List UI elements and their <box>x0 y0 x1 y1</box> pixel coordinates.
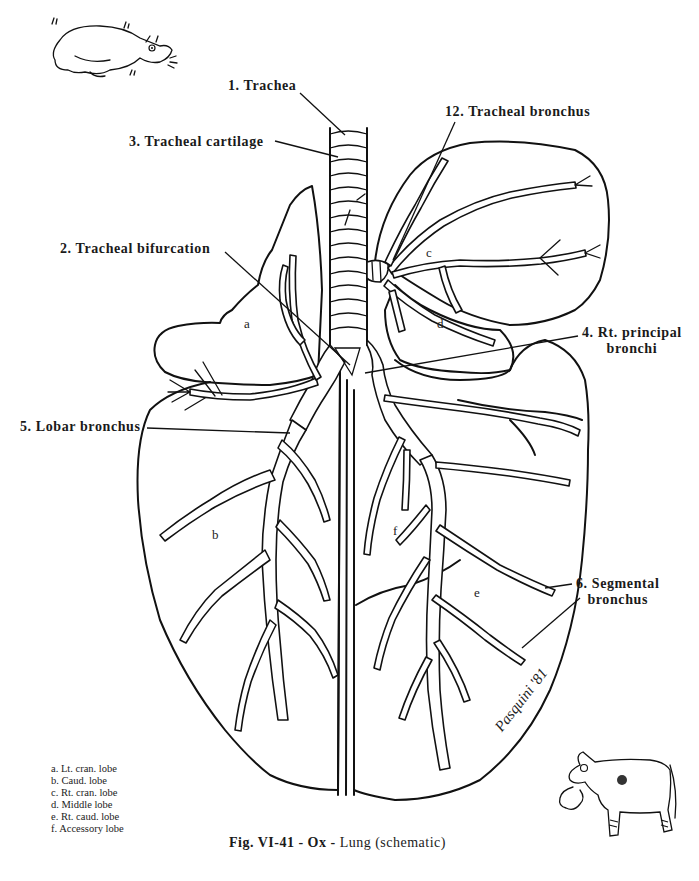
label-rt-principal-bronchi-line2: bronchi <box>582 341 682 357</box>
figure-caption: Fig. VI-41 - Ox - Lung (schematic) <box>229 835 446 851</box>
label-tracheal-bifurcation: 2. Tracheal bifurcation <box>60 241 210 257</box>
label-segmental-bronchus-line1: 6. Segmental <box>576 576 659 592</box>
legend-item: a. Lt. cran. lobe <box>51 763 124 775</box>
leader-lobar-bronchus <box>147 428 290 433</box>
lobe-letter-f: f <box>393 523 397 539</box>
legend-item: b. Caud. lobe <box>51 775 124 787</box>
label-rt-principal-bronchi: 4. Rt. principal bronchi <box>582 325 682 357</box>
lobe-legend: a. Lt. cran. lobe b. Caud. lobe c. Rt. c… <box>51 763 124 835</box>
lobe-letter-a: a <box>244 316 250 332</box>
legend-item: f. Accessory lobe <box>51 823 124 835</box>
label-lobar-bronchus: 5. Lobar bronchus <box>20 419 141 435</box>
legend-item: c. Rt. cran. lobe <box>51 787 124 799</box>
left-cranial-lobe-outline <box>154 186 322 385</box>
leader-tracheal-cartilage <box>275 141 338 157</box>
label-trachea: 1. Trachea <box>228 78 296 94</box>
legend-item: d. Middle lobe <box>51 799 124 811</box>
label-segmental-bronchus: 6. Segmental bronchus <box>576 576 659 608</box>
caption-prefix: Fig. VI-41 - Ox - <box>229 835 336 850</box>
label-tracheal-cartilage: 3. Tracheal cartilage <box>129 134 264 150</box>
label-tracheal-bronchus: 12. Tracheal bronchus <box>445 104 590 120</box>
coughing-horse-icon <box>560 752 676 836</box>
lobe-letter-e: e <box>474 585 480 601</box>
legend-item: e. Rt. caud. lobe <box>51 811 124 823</box>
lung-drawing <box>0 0 699 881</box>
trachea <box>330 128 367 345</box>
caption-suffix: Lung (schematic) <box>336 835 446 850</box>
leader-trachea <box>300 93 345 135</box>
lobe-letter-b: b <box>212 527 219 543</box>
lung-diagram: 1. Trachea 3. Tracheal cartilage 2. Trac… <box>0 0 699 881</box>
leader-segmental-bronchus-1 <box>545 584 572 588</box>
label-rt-principal-bronchi-line1: 4. Rt. principal <box>582 325 682 341</box>
lying-ox-icon <box>52 18 177 77</box>
lobe-letter-d: d <box>437 316 444 332</box>
lobe-letter-c: c <box>426 245 432 261</box>
label-segmental-bronchus-line2: bronchus <box>576 592 659 608</box>
